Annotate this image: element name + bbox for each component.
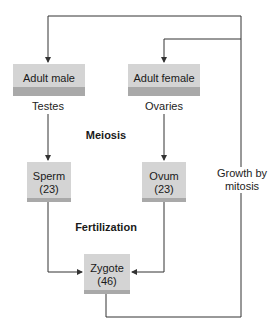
ovaries-label: Ovaries xyxy=(140,100,188,112)
zygote-label: Zygote xyxy=(84,262,130,275)
sperm-count: (23) xyxy=(27,183,71,196)
growth-line-1: Growth by xyxy=(216,167,268,180)
fertilization-label: Fertilization xyxy=(74,221,138,233)
box-shadow xyxy=(128,87,200,96)
testes-label: Testes xyxy=(28,100,68,112)
ovum-count: (23) xyxy=(142,183,186,196)
meiosis-label: Meiosis xyxy=(84,129,128,141)
ovum-label: Ovum xyxy=(142,170,186,183)
adult-male-node: Adult male xyxy=(13,64,85,96)
adult-female-node: Adult female xyxy=(128,64,200,96)
box-shadow xyxy=(84,290,130,294)
box-shadow xyxy=(142,198,186,202)
sperm-node: Sperm (23) xyxy=(27,162,71,202)
ovum-node: Ovum (23) xyxy=(142,162,186,202)
adult-male-label: Adult male xyxy=(23,72,75,84)
growth-line-2: mitosis xyxy=(216,180,268,193)
zygote-count: (46) xyxy=(84,275,130,288)
zygote-node: Zygote (46) xyxy=(84,254,130,294)
growth-by-mitosis-label: Growth by mitosis xyxy=(216,167,268,193)
sperm-label: Sperm xyxy=(27,170,71,183)
adult-female-label: Adult female xyxy=(133,72,194,84)
box-shadow xyxy=(27,198,71,202)
box-shadow xyxy=(13,87,85,96)
